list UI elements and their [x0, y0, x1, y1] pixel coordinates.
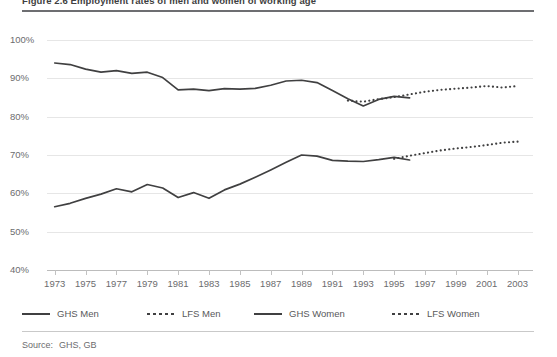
- x-axis-labels: 1973197519771979198119831985198719891991…: [0, 278, 557, 292]
- x-axis-tick-label: 1979: [137, 278, 158, 290]
- series-line-ghs-women: [55, 155, 410, 207]
- x-axis-tick-label: 1999: [445, 278, 466, 290]
- title-divider: [22, 10, 534, 12]
- y-axis-tick-label: 60%: [10, 188, 44, 198]
- y-axis-labels: 100%90%80%70%60%50%40%: [10, 40, 44, 270]
- x-axis-tick-label: 1989: [291, 278, 312, 290]
- x-axis-tick-label: 1997: [414, 278, 435, 290]
- x-axis-tick: [86, 270, 87, 275]
- chart-data-layer: [47, 40, 533, 270]
- x-axis-tick: [147, 270, 148, 275]
- x-axis-tick: [178, 270, 179, 275]
- x-axis-tick-label: 1991: [322, 278, 343, 290]
- legend-label: LFS Men: [182, 308, 221, 320]
- legend-swatch-dotted-line-icon: [147, 309, 175, 319]
- x-axis-tick: [271, 270, 272, 275]
- x-axis-tick: [518, 270, 519, 275]
- legend-label: LFS Women: [427, 308, 480, 320]
- y-axis-tick-label: 100%: [10, 35, 44, 45]
- y-axis-tick-label: 50%: [10, 227, 44, 237]
- legend-item-ghs-women[interactable]: GHS Women: [254, 305, 345, 323]
- x-axis-tick-label: 1981: [168, 278, 189, 290]
- source-value: GHS, GB: [59, 340, 97, 350]
- x-axis-tick-label: 2001: [476, 278, 497, 290]
- footer-divider: [22, 331, 534, 332]
- x-axis-tick: [332, 270, 333, 275]
- legend-swatch-solid-line-icon: [254, 309, 282, 319]
- legend-swatch-dotted-line-icon: [392, 309, 420, 319]
- x-axis-tick: [363, 270, 364, 275]
- x-axis-tick-label: 2003: [507, 278, 528, 290]
- y-axis-tick-label: 80%: [10, 112, 44, 122]
- x-axis-tick: [55, 270, 56, 275]
- x-axis-tick-label: 1977: [106, 278, 127, 290]
- x-axis-tick: [425, 270, 426, 275]
- x-axis-tick: [240, 270, 241, 275]
- x-axis-tick-label: 1975: [75, 278, 96, 290]
- x-axis-tick-label: 1973: [44, 278, 65, 290]
- y-axis-tick-label: 40%: [10, 265, 44, 275]
- figure-title: Figure 2.6 Employment rates of men and w…: [22, 0, 534, 8]
- x-axis-ticks: [47, 270, 533, 276]
- x-axis-tick: [394, 270, 395, 275]
- y-axis-tick-label: 70%: [10, 150, 44, 160]
- source-label: Source:: [22, 340, 53, 350]
- x-axis-tick-label: 1987: [260, 278, 281, 290]
- x-axis-tick-label: 1983: [198, 278, 219, 290]
- legend-label: GHS Men: [57, 308, 99, 320]
- series-line-ghs-men: [55, 63, 410, 106]
- chart-legend: GHS MenLFS MenGHS WomenLFS Women: [22, 305, 534, 323]
- legend-swatch-solid-line-icon: [22, 309, 50, 319]
- legend-item-lfs-men[interactable]: LFS Men: [147, 305, 221, 323]
- x-axis-tick-label: 1993: [353, 278, 374, 290]
- x-axis-tick: [116, 270, 117, 275]
- series-line-lfs-men: [348, 86, 518, 102]
- y-axis-tick-label: 90%: [10, 73, 44, 83]
- x-axis-tick: [487, 270, 488, 275]
- figure-title-text: Figure 2.6 Employment rates of men and w…: [22, 0, 534, 7]
- legend-label: GHS Women: [289, 308, 345, 320]
- x-axis-tick: [302, 270, 303, 275]
- series-line-lfs-women: [394, 142, 517, 159]
- x-axis-tick: [456, 270, 457, 275]
- legend-item-ghs-men[interactable]: GHS Men: [22, 305, 99, 323]
- source-note: Source:GHS, GB: [22, 339, 97, 351]
- legend-item-lfs-women[interactable]: LFS Women: [392, 305, 480, 323]
- x-axis-tick-label: 1985: [229, 278, 250, 290]
- x-axis-tick-label: 1995: [384, 278, 405, 290]
- x-axis-tick: [209, 270, 210, 275]
- figure-container: Figure 2.6 Employment rates of men and w…: [0, 0, 557, 357]
